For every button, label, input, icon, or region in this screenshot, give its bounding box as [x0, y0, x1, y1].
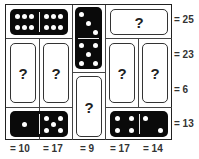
pip — [51, 14, 56, 19]
unknown-domino[interactable]: ? — [43, 43, 69, 103]
col-sum-1: = 10 — [10, 143, 30, 154]
pip — [44, 128, 49, 133]
pip — [22, 25, 27, 30]
puzzle-grid: ? ? ? ? ? ? — [5, 4, 172, 140]
unknown-domino[interactable]: ? — [76, 76, 102, 137]
question-mark: ? — [110, 65, 134, 82]
unknown-domino[interactable]: ? — [10, 43, 36, 103]
pip — [15, 14, 20, 19]
col-sum-4: = 17 — [110, 143, 130, 154]
pip — [22, 14, 27, 19]
grid-line — [105, 38, 172, 39]
pip — [86, 52, 91, 57]
col-sum-2: = 17 — [43, 143, 63, 154]
pip — [51, 122, 56, 127]
domino-divider — [139, 114, 140, 134]
col-sum-5: = 14 — [143, 143, 163, 154]
domino-4-1[interactable] — [110, 111, 168, 137]
row-sum-1: = 25 — [174, 14, 194, 25]
pip — [29, 25, 34, 30]
domino-divider — [39, 12, 40, 32]
pip — [93, 43, 98, 48]
domino-divider — [78, 38, 99, 39]
pip — [44, 25, 49, 30]
row-sum-4: = 13 — [174, 118, 194, 129]
domino-divider — [39, 114, 40, 134]
grid-line — [138, 38, 139, 107]
pip — [129, 128, 134, 133]
pip — [58, 14, 63, 19]
pip — [58, 116, 63, 121]
pip — [129, 116, 134, 121]
pip — [143, 116, 148, 121]
row-sum-3: = 6 — [174, 84, 188, 95]
pip — [22, 122, 27, 127]
pip — [86, 21, 91, 26]
grid-line — [72, 72, 105, 73]
question-mark: ? — [143, 65, 167, 82]
pip — [93, 30, 98, 35]
grid-line — [105, 5, 106, 140]
pip — [44, 116, 49, 121]
grid-line — [105, 107, 172, 108]
pip — [58, 128, 63, 133]
question-mark: ? — [111, 14, 167, 31]
row-sum-2: = 23 — [174, 49, 194, 60]
unknown-domino[interactable]: ? — [110, 9, 168, 35]
question-mark: ? — [11, 65, 35, 82]
domino-1-5[interactable] — [10, 111, 68, 137]
grid-line — [6, 38, 72, 39]
pip — [51, 25, 56, 30]
unknown-domino[interactable]: ? — [109, 43, 135, 103]
pip — [58, 25, 63, 30]
question-mark: ? — [44, 65, 68, 82]
pip — [29, 14, 34, 19]
grid-line — [6, 107, 72, 108]
pip — [93, 61, 98, 66]
domino-6-6[interactable] — [10, 9, 68, 35]
pip — [79, 61, 84, 66]
pip — [79, 43, 84, 48]
domino-3-5[interactable] — [75, 7, 102, 69]
pip — [158, 128, 163, 133]
col-sum-3: = 9 — [80, 143, 94, 154]
pip — [115, 128, 120, 133]
pip — [115, 116, 120, 121]
pip — [44, 14, 49, 19]
unknown-domino[interactable]: ? — [142, 43, 168, 103]
pip — [15, 25, 20, 30]
pip — [79, 12, 84, 17]
question-mark: ? — [77, 98, 101, 115]
